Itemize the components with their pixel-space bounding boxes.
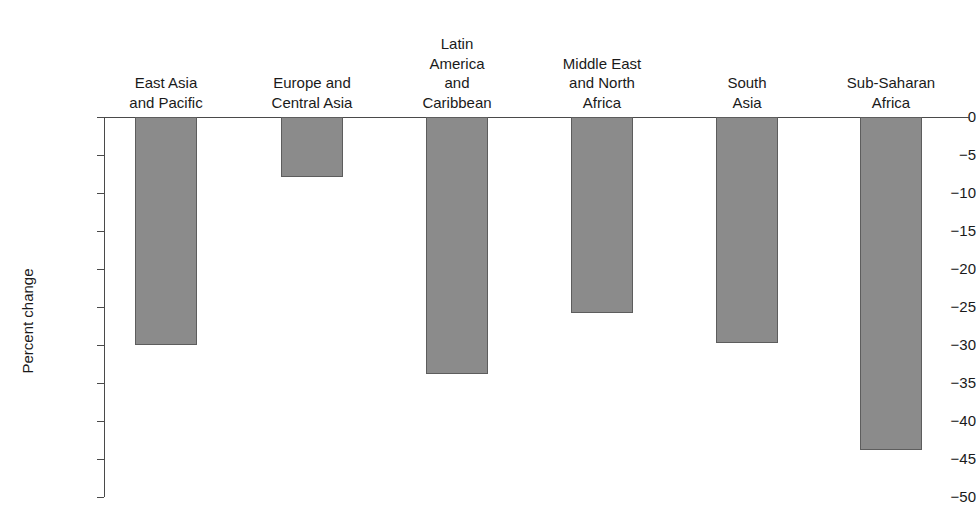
- category-label-text: South Asia: [677, 73, 817, 112]
- category-label: Europe and Central Asia: [242, 0, 382, 112]
- y-axis-tick: [97, 269, 104, 270]
- y-axis-tick: [97, 459, 104, 460]
- category-label: East Asia and Pacific: [96, 0, 236, 112]
- bar: [716, 117, 778, 343]
- category-label-text: Sub-Saharan Africa: [821, 73, 961, 112]
- y-axis-tick-label: −15: [920, 223, 976, 238]
- y-axis-tick-label: −10: [920, 185, 976, 200]
- y-axis-tick-label: −5: [920, 147, 976, 162]
- y-axis-tick: [97, 345, 104, 346]
- category-label-text: Europe and Central Asia: [242, 73, 382, 112]
- category-label: Latin America and Caribbean: [387, 0, 527, 112]
- y-axis-tick: [97, 193, 104, 194]
- y-axis-tick: [97, 383, 104, 384]
- bar: [135, 117, 197, 345]
- category-label: South Asia: [677, 0, 817, 112]
- bar-chart: Percent change 0−5−10−15−20−25−30−35−40−…: [0, 0, 976, 532]
- y-axis-title: Percent change: [20, 231, 36, 411]
- bar: [281, 117, 343, 177]
- bar: [571, 117, 633, 313]
- y-axis-tick: [97, 421, 104, 422]
- y-axis-tick: [97, 117, 104, 118]
- y-axis-tick-label: −40: [920, 413, 976, 428]
- bar: [860, 117, 922, 450]
- zero-baseline: [104, 117, 970, 118]
- y-axis-tick: [97, 231, 104, 232]
- y-axis-tick-label: −45: [920, 451, 976, 466]
- y-axis-tick: [97, 307, 104, 308]
- y-axis-tick-label: −50: [920, 489, 976, 504]
- y-axis-line: [104, 117, 105, 497]
- y-axis-tick-label: −20: [920, 261, 976, 276]
- category-label-text: Middle East and North Africa: [532, 54, 672, 113]
- category-label-text: Latin America and Caribbean: [387, 34, 527, 112]
- y-axis-tick-label: −30: [920, 337, 976, 352]
- y-axis-tick: [97, 155, 104, 156]
- category-label: Middle East and North Africa: [532, 0, 672, 112]
- category-label-text: East Asia and Pacific: [96, 73, 236, 112]
- y-axis-tick: [97, 497, 104, 498]
- y-axis-tick-label: −25: [920, 299, 976, 314]
- y-axis-tick-label: −35: [920, 375, 976, 390]
- bar: [426, 117, 488, 374]
- category-label: Sub-Saharan Africa: [821, 0, 961, 112]
